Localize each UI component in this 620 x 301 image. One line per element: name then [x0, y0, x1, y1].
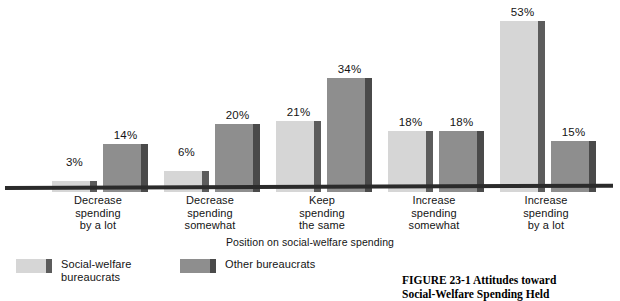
bar-g2-other[interactable] — [327, 78, 372, 192]
legend-item-social-welfare-bureaucrats[interactable]: Social-welfare bureaucrats — [16, 258, 131, 283]
legend-swatch-light-gray-icon — [16, 259, 52, 273]
category-label-decrease-somewhat: Decrease spending somewhat — [160, 194, 260, 232]
category-line-2: spending — [160, 207, 260, 220]
swatch-side-shadow — [46, 259, 52, 273]
category-line-1: Decrease — [160, 194, 260, 207]
figure-caption-line-1: FIGURE 23-1 Attitudes toward — [402, 274, 612, 288]
bar-face — [500, 21, 538, 192]
value-label-g1-social-welfare: 6% — [178, 146, 195, 158]
bar-group-increase-by-a-lot: 53% 15% — [496, 0, 596, 192]
category-line-3: by a lot — [48, 219, 148, 232]
swatch-side-shadow — [210, 259, 216, 273]
value-label-g4-other: 15% — [562, 126, 586, 138]
category-line-3: somewhat — [160, 219, 260, 232]
bar-side-shadow — [426, 131, 433, 192]
value-label-g3-social-welfare: 18% — [399, 116, 423, 128]
bar-side-shadow — [314, 121, 321, 192]
value-label-g0-social-welfare: 3% — [66, 156, 83, 168]
bar-side-shadow — [253, 124, 260, 192]
value-label-g4-social-welfare: 53% — [511, 6, 535, 18]
category-line-1: Decrease — [48, 194, 148, 207]
bar-side-shadow — [477, 131, 484, 192]
bar-g3-other[interactable] — [439, 131, 484, 192]
value-label-g2-social-welfare: 21% — [287, 106, 311, 118]
category-line-3: somewhat — [384, 219, 484, 232]
category-label-decrease-by-a-lot: Decrease spending by a lot — [48, 194, 148, 232]
category-line-1: Increase — [384, 194, 484, 207]
legend-label-social-welfare-bureaucrats: Social-welfare bureaucrats — [61, 258, 131, 283]
figure-caption: FIGURE 23-1 Attitudes toward Social-Welf… — [402, 274, 612, 301]
legend-swatch-medium-gray-icon — [180, 259, 216, 273]
bar-group-decrease-somewhat: 6% 20% — [160, 0, 260, 192]
bar-group-keep-the-same: 21% 34% — [272, 0, 372, 192]
chart-plot-area: 3% 14% 6% — [0, 0, 620, 192]
category-line-1: Keep — [272, 194, 372, 207]
bar-g1-other[interactable] — [215, 124, 260, 192]
value-label-g1-other: 20% — [226, 109, 250, 121]
category-label-keep-the-same: Keep spending the same — [272, 194, 372, 232]
category-line-2: spending — [48, 207, 148, 220]
bar-face — [276, 121, 314, 192]
bar-face — [327, 78, 365, 192]
bar-g4-social-welfare[interactable] — [500, 21, 545, 192]
x-axis-category-labels: Decrease spending by a lot Decrease spen… — [0, 194, 620, 236]
bar-face — [215, 124, 253, 192]
bar-face — [388, 131, 426, 192]
category-line-2: spending — [496, 207, 596, 220]
category-line-2: spending — [384, 207, 484, 220]
value-label-g0-other: 14% — [114, 129, 138, 141]
bar-side-shadow — [538, 21, 545, 192]
value-label-g3-other: 18% — [450, 116, 474, 128]
legend-item-other-bureaucrats[interactable]: Other bureaucrats — [180, 258, 315, 273]
bar-g2-social-welfare[interactable] — [276, 121, 321, 192]
bar-g3-social-welfare[interactable] — [388, 131, 433, 192]
bar-group-increase-somewhat: 18% 18% — [384, 0, 484, 192]
value-label-g2-other: 34% — [338, 63, 362, 75]
category-line-2: spending — [272, 207, 372, 220]
swatch-face — [16, 259, 46, 273]
category-line-3: the same — [272, 219, 372, 232]
category-line-3: by a lot — [496, 219, 596, 232]
category-label-increase-by-a-lot: Increase spending by a lot — [496, 194, 596, 232]
category-label-increase-somewhat: Increase spending somewhat — [384, 194, 484, 232]
bar-side-shadow — [365, 78, 372, 192]
bar-group-decrease-by-a-lot: 3% 14% — [48, 0, 148, 192]
legend-label-other-bureaucrats: Other bureaucrats — [225, 258, 315, 271]
figure-caption-line-2: Social-Welfare Spending Held — [402, 288, 612, 301]
x-axis-title: Position on social-welfare spending — [0, 236, 620, 248]
bar-face — [439, 131, 477, 192]
category-line-1: Increase — [496, 194, 596, 207]
swatch-face — [180, 259, 210, 273]
